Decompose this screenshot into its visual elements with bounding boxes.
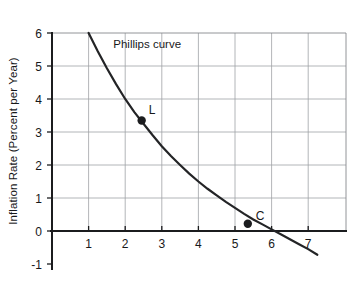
- x-tick-label: 6: [268, 237, 275, 251]
- x-tick-label: 4: [195, 237, 202, 251]
- x-tick-label: 3: [158, 237, 165, 251]
- data-point-label-c: C: [256, 209, 265, 223]
- grid-layer: [52, 33, 346, 231]
- y-tick-label: 6: [35, 27, 42, 41]
- x-tick-label: 1: [85, 237, 92, 251]
- data-point-l: [137, 116, 145, 124]
- curve-name-label: Phillips curve: [113, 38, 181, 50]
- y-tick-label: 2: [35, 159, 42, 173]
- data-points-layer: LC: [137, 103, 264, 227]
- y-tick-label: 3: [35, 126, 42, 140]
- y-tick-label: 5: [35, 60, 42, 74]
- tick-labels-layer: 6543210-11234567: [31, 27, 312, 272]
- y-tick-label: 1: [35, 192, 42, 206]
- tick-marks-layer: [47, 33, 308, 264]
- data-point-label-l: L: [149, 103, 156, 117]
- x-tick-label: 7: [305, 237, 312, 251]
- y-tick-label: 4: [35, 93, 42, 107]
- x-tick-label: 2: [122, 237, 129, 251]
- x-tick-label: 5: [232, 237, 239, 251]
- plot-canvas: LC 6543210-11234567 Phillips curve: [0, 0, 357, 281]
- annotations-layer: Phillips curve: [113, 38, 181, 50]
- phillips-curve-figure: Inflation Rate (Percent per Year) LC 654…: [0, 0, 357, 281]
- y-tick-label: -1: [31, 258, 42, 272]
- data-point-c: [244, 220, 252, 228]
- y-tick-label: 0: [35, 225, 42, 239]
